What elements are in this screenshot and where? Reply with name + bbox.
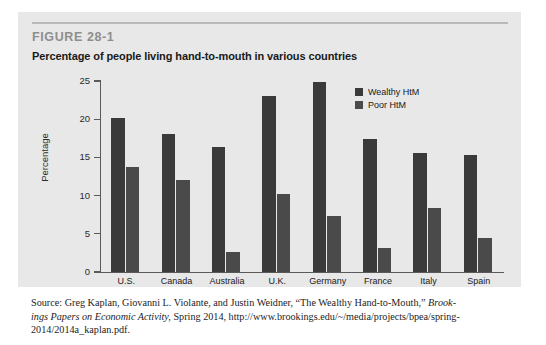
- bar: [111, 118, 125, 272]
- x-axis-line: [100, 272, 504, 273]
- bar-group: [252, 81, 302, 272]
- bar: [176, 180, 190, 272]
- source-line-1-text: Source: Greg Kaplan, Giovanni L. Violant…: [31, 297, 428, 308]
- bar: [212, 147, 226, 272]
- y-axis-tick: [94, 271, 101, 272]
- legend-swatch-icon: [355, 101, 363, 109]
- bar: [478, 238, 492, 272]
- bar: [262, 96, 276, 272]
- bar: [277, 194, 291, 272]
- y-axis-tick-label: 15: [58, 151, 90, 162]
- legend-label: Wealthy HtM: [368, 87, 419, 97]
- x-axis-category-label: Canada: [151, 276, 201, 286]
- chart-plot-area: 0510152025 Percentage U.S.CanadaAustrali…: [18, 12, 521, 287]
- bar: [428, 208, 442, 272]
- source-line-2-italic: ings Papers on Economic Activity,: [31, 311, 171, 322]
- source-line-2-text: Spring 2014, http://www.brookings.edu/~/…: [171, 311, 460, 322]
- bar-group: [303, 81, 353, 272]
- bar-group: [454, 81, 504, 272]
- x-axis-category-label: Germany: [303, 276, 353, 286]
- legend-item: Poor HtM: [355, 100, 419, 110]
- y-axis-tick-label: 10: [58, 190, 90, 201]
- bars-layer: [101, 81, 504, 272]
- bar: [313, 82, 327, 272]
- bar: [327, 216, 341, 272]
- x-axis-category-label: Italy: [403, 276, 453, 286]
- source-line-2: ings Papers on Economic Activity, Spring…: [31, 310, 503, 324]
- legend-label: Poor HtM: [368, 100, 406, 110]
- y-axis-tick: [94, 233, 101, 234]
- source-line-3: 2014/2014a_kaplan.pdf.: [31, 323, 503, 337]
- y-axis-tick: [94, 195, 101, 196]
- y-axis-tick-label: 20: [58, 113, 90, 124]
- x-axis-category-label: U.K.: [252, 276, 302, 286]
- bar: [226, 252, 240, 272]
- bar: [363, 139, 377, 272]
- legend-item: Wealthy HtM: [355, 87, 419, 97]
- legend-swatch-icon: [355, 88, 363, 96]
- y-axis-tick-label: 25: [58, 75, 90, 86]
- y-axis-tick: [94, 157, 101, 158]
- chart-legend: Wealthy HtMPoor HtM: [355, 87, 419, 113]
- y-axis-tick-label: 5: [58, 228, 90, 239]
- x-axis-category-label: U.S.: [101, 276, 151, 286]
- source-line-1: Source: Greg Kaplan, Giovanni L. Violant…: [31, 296, 503, 310]
- y-axis-tick-label: 0: [58, 266, 90, 277]
- x-axis-category-label: Australia: [202, 276, 252, 286]
- x-axis-category-label: France: [353, 276, 403, 286]
- bar: [464, 155, 478, 272]
- x-axis-category-label: Spain: [454, 276, 504, 286]
- bar: [126, 167, 140, 272]
- y-axis-tick: [94, 119, 101, 120]
- figure-panel: FIGURE 28-1 Percentage of people living …: [18, 12, 521, 287]
- bar: [378, 248, 392, 272]
- y-axis-title: Percentage: [39, 108, 50, 208]
- y-axis-tick: [94, 80, 101, 81]
- source-line-1-italic: Brook-: [428, 297, 456, 308]
- bar: [162, 134, 176, 272]
- source-citation: Source: Greg Kaplan, Giovanni L. Violant…: [31, 296, 503, 337]
- bar-group: [101, 81, 151, 272]
- bar-group: [202, 81, 252, 272]
- bar: [413, 153, 427, 272]
- bar-group: [151, 81, 201, 272]
